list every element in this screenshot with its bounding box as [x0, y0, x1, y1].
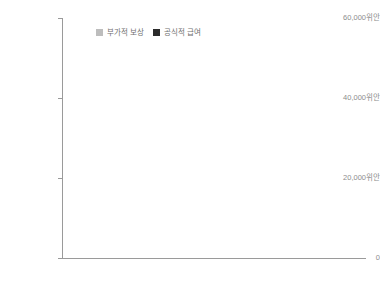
legend-item-official: 공식적 급여	[153, 28, 201, 37]
plot-area	[62, 18, 366, 258]
y-axis-tick	[58, 258, 62, 259]
legend-label-official: 공식적 급여	[164, 28, 201, 37]
x-axis-line	[62, 258, 366, 259]
legend-swatch-supplementary-icon	[96, 29, 103, 36]
legend-label-supplementary: 부가적 보상	[107, 28, 144, 37]
legend-swatch-official-icon	[153, 29, 160, 36]
stacked-bar-chart: 020,000위안40,000위안60,000위안 부가적 보상 공식적 급여	[0, 0, 380, 302]
legend-item-supplementary: 부가적 보상	[96, 28, 144, 37]
chart-legend: 부가적 보상 공식적 급여	[96, 28, 201, 37]
